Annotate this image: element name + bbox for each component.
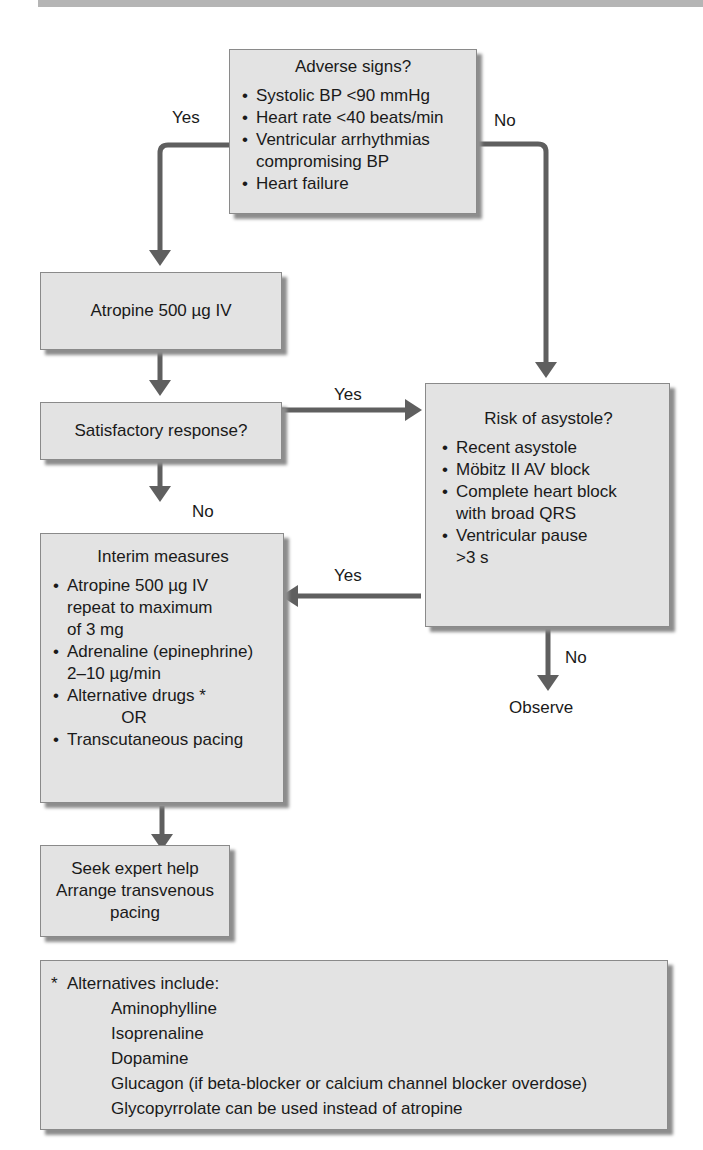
- interim-measures-list: Atropine 500 µg IV repeat to maximum of …: [49, 575, 277, 751]
- asterisk-marker: *: [51, 971, 67, 996]
- alternatives-list: Aminophylline Isoprenaline Dopamine Gluc…: [51, 996, 661, 1121]
- list-item: Atropine 500 µg IV: [49, 575, 277, 597]
- list-item-continuation: with broad QRS: [438, 503, 659, 525]
- list-item: Heart rate <40 beats/min: [238, 107, 468, 129]
- seek-expert-line: pacing: [110, 902, 160, 924]
- adverse-yes-label: Yes: [172, 108, 200, 128]
- response-no-label: No: [192, 502, 214, 522]
- risk-of-asystole-list: Recent asystole Möbitz II AV block Compl…: [438, 437, 659, 569]
- arrow-adverse-yes: [160, 145, 229, 250]
- adverse-no-label: No: [494, 111, 516, 131]
- alternative-item: Glycopyrrolate can be used instead of at…: [111, 1096, 661, 1121]
- list-item-continuation: >3 s: [438, 547, 659, 569]
- seek-expert-box: Seek expert help Arrange transvenous pac…: [40, 845, 230, 937]
- or-separator: OR: [49, 707, 277, 729]
- seek-expert-line: Arrange transvenous: [56, 880, 214, 902]
- list-item: Ventricular pause: [438, 525, 659, 547]
- satisfactory-response-box: Satisfactory response?: [40, 402, 282, 460]
- list-item: Systolic BP <90 mmHg: [238, 85, 468, 107]
- observe-label: Observe: [509, 698, 573, 718]
- list-item: Transcutaneous pacing: [49, 729, 277, 751]
- list-item: Möbitz II AV block: [438, 459, 659, 481]
- response-yes-label: Yes: [334, 385, 362, 405]
- alternatives-footnote-box: * Alternatives include: Aminophylline Is…: [40, 960, 668, 1130]
- adverse-signs-title: Adverse signs?: [238, 56, 468, 78]
- list-item: Complete heart block: [438, 481, 659, 503]
- asystole-no-label: No: [565, 648, 587, 668]
- list-item: Alternative drugs *: [49, 685, 277, 707]
- asystole-yes-label: Yes: [334, 566, 362, 586]
- list-item: Ventricular arrhythmias: [238, 129, 468, 151]
- list-item: Adrenaline (epinephrine): [49, 641, 277, 663]
- adverse-signs-box: Adverse signs? Systolic BP <90 mmHg Hear…: [229, 49, 477, 214]
- alternative-item: Dopamine: [111, 1046, 661, 1071]
- atropine-text: Atropine 500 µg IV: [90, 300, 231, 322]
- arrow-adverse-no: [476, 144, 546, 362]
- list-item-continuation: compromising BP: [238, 151, 468, 173]
- seek-expert-line: Seek expert help: [71, 858, 199, 880]
- list-item: Heart failure: [238, 173, 468, 195]
- footnote-heading-row: * Alternatives include:: [51, 971, 661, 996]
- list-item-continuation: of 3 mg: [49, 619, 277, 641]
- risk-of-asystole-box: Risk of asystole? Recent asystole Möbitz…: [425, 383, 670, 627]
- list-item: Recent asystole: [438, 437, 659, 459]
- alternative-item: Glucagon (if beta-blocker or calcium cha…: [111, 1071, 661, 1096]
- satisfactory-response-text: Satisfactory response?: [75, 420, 248, 442]
- alternative-item: Aminophylline: [111, 996, 661, 1021]
- interim-measures-title: Interim measures: [49, 546, 277, 568]
- list-item-continuation: repeat to maximum: [49, 597, 277, 619]
- atropine-box: Atropine 500 µg IV: [40, 272, 282, 350]
- footnote-heading: Alternatives include:: [67, 971, 219, 996]
- list-item-continuation: 2–10 µg/min: [49, 663, 277, 685]
- interim-measures-box: Interim measures Atropine 500 µg IV repe…: [40, 533, 284, 803]
- risk-of-asystole-title: Risk of asystole?: [438, 408, 659, 430]
- adverse-signs-list: Systolic BP <90 mmHg Heart rate <40 beat…: [238, 85, 468, 195]
- alternative-item: Isoprenaline: [111, 1021, 661, 1046]
